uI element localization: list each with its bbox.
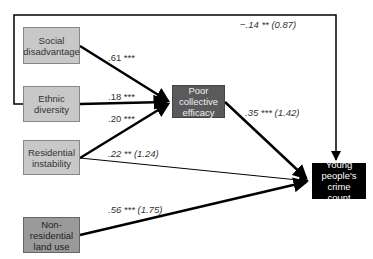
residential-to-crime-arrow (80, 158, 308, 181)
node-ethnic-diversity: Ethnic diversity (23, 86, 80, 122)
coef-nonres-crime: .56 *** (1.75) (108, 204, 162, 215)
node-poor-collective-efficacy: Poor collective efficacy (172, 85, 225, 118)
node-young-peoples-crime-count: Young people's crime count (312, 163, 366, 199)
node-social-disadvantage: Social disadvantage (23, 27, 80, 64)
coef-social-efficacy: .61 *** (108, 52, 135, 63)
coef-ethnic-efficacy: .18 *** (108, 91, 135, 102)
node-residential-instability: Residential instability (23, 140, 80, 175)
coef-efficacy-crime: .35 *** (1.42) (245, 107, 299, 118)
node-non-residential-land-use: Non-residential land use (23, 217, 80, 253)
coef-residential-crime: .22 ** (1.24) (108, 148, 159, 159)
coef-ethnic-crime: −.14 ** (0.87) (240, 19, 296, 30)
coef-residential-efficacy: .20 *** (108, 113, 135, 124)
ethnic-to-efficacy-arrow (80, 102, 166, 104)
